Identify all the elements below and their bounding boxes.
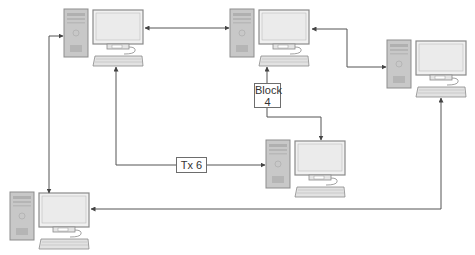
block-label-line1: Block [255,84,280,96]
block-label-line2: 4 [255,96,280,108]
block-label: Block 4 [254,83,281,108]
link-tx-to-pc1 [116,67,176,165]
computer-bottom-left [10,192,89,249]
network-diagram [0,0,475,255]
link-block-to-pc4 [267,107,321,140]
computer-top-left [64,9,143,66]
link-pc1-pc5 [49,36,63,193]
transaction-label: Tx 6 [176,157,207,173]
computer-right [387,40,466,97]
computer-top-center [230,9,309,66]
link-pc2-pc3 [312,29,386,67]
transaction-label-text: Tx 6 [181,159,202,171]
computer-bottom-center [266,140,345,197]
